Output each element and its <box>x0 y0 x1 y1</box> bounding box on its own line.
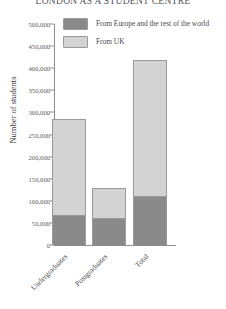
bar-segment-from-uk[interactable] <box>92 188 126 218</box>
bar-stack[interactable] <box>133 60 167 245</box>
chart-container: LONDON AS A STUDENT CENTRE Number of stu… <box>0 0 226 309</box>
bar-segment-from-europe-rest-of-world[interactable] <box>52 215 86 245</box>
bar-segment-from-europe-rest-of-world[interactable] <box>133 196 167 245</box>
bar-stack[interactable] <box>52 119 86 245</box>
chart-legend: From Europe and the rest of the worldFro… <box>63 17 209 53</box>
bar-stack[interactable] <box>92 188 126 245</box>
legend-swatch-icon <box>63 36 88 48</box>
legend-label: From UK <box>96 37 125 46</box>
legend-label: From Europe and the rest of the world <box>96 19 209 28</box>
legend-swatch-icon <box>63 18 88 30</box>
x-axis-category-label: Postgraduates <box>73 252 109 288</box>
legend-item[interactable]: From Europe and the rest of the world <box>63 17 209 30</box>
bar-segment-from-uk[interactable] <box>52 119 86 215</box>
bar-segment-from-europe-rest-of-world[interactable] <box>92 218 126 245</box>
x-axis-category-label: Undergraduates <box>29 252 69 292</box>
legend-item[interactable]: From UK <box>63 35 209 48</box>
bar-segment-from-uk[interactable] <box>133 60 167 196</box>
x-axis-category-label: Total <box>133 252 150 269</box>
